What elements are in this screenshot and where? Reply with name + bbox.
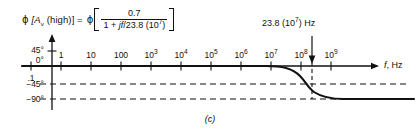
x-axis-title-units: , Hz	[387, 60, 403, 70]
x-axis-arrowhead	[371, 63, 379, 70]
x-tick-label-1e9: 109	[324, 50, 337, 60]
x-tick-label-100: 100	[114, 50, 128, 60]
y-tick-label-minus45: −45°	[10, 79, 44, 89]
x-tick-label-1e8: 108	[294, 50, 307, 60]
x-tick-label-1e5: 105	[204, 50, 217, 60]
x-tick-label-1e4: 104	[174, 50, 187, 60]
y-tick-label-minus90: −90°	[10, 94, 44, 104]
y-axis-arrowhead	[49, 34, 56, 42]
y-tick-label-0: 0°	[10, 55, 44, 65]
x-axis-title: f, Hz	[384, 60, 403, 70]
figure-caption: (c)	[0, 114, 420, 124]
x-tick-label-1e7: 107	[264, 50, 277, 60]
x-tick-label-1e3: 103	[144, 50, 157, 60]
x-tick-label-1: 1	[59, 50, 64, 60]
y-tick-label-45: 45°	[10, 45, 44, 55]
corner-frequency-arrow-head	[309, 56, 316, 65]
phase-response-curve	[22, 66, 414, 99]
x-tick-label-1e6: 106	[234, 50, 247, 60]
x-tick-label-10: 10	[86, 50, 95, 60]
bode-phase-figure: ϕ [Av (high)] = ϕ 0.7 1 + jf/23.8 (107) …	[0, 0, 420, 138]
